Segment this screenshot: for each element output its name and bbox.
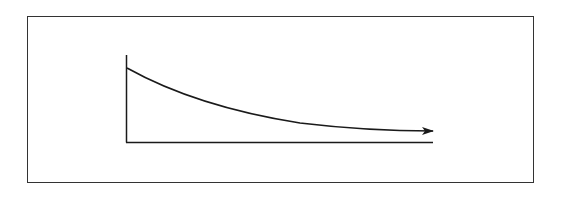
- decay-curve: [127, 68, 433, 131]
- decay-diagram: [0, 0, 568, 200]
